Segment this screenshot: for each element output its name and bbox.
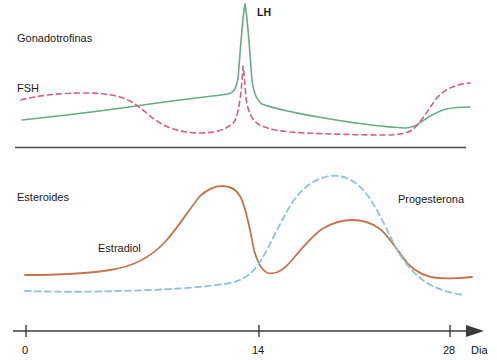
- gonadotrofinas-label: Gonadotrofinas: [17, 32, 93, 44]
- tick-label-0: 0: [22, 344, 28, 356]
- tick-label-14: 14: [252, 344, 264, 356]
- fsh-curve: [21, 66, 470, 135]
- progesterona-label: Progesterona: [398, 193, 465, 205]
- figure-canvas: Gonadotrofinas FSH LH Esteroides Estradi…: [0, 0, 497, 360]
- lh-curve: [22, 4, 470, 128]
- x-axis-arrow-icon: [466, 325, 484, 337]
- estradiol-label: Estradiol: [98, 242, 141, 254]
- x-axis-title: Dia: [471, 344, 488, 356]
- esteroides-label: Esteroides: [17, 191, 69, 203]
- bottom-panel: Esteroides Estradiol Progesterona: [17, 176, 472, 295]
- hormone-cycle-diagram: Gonadotrofinas FSH LH Esteroides Estradi…: [0, 0, 497, 360]
- top-panel: Gonadotrofinas FSH LH: [17, 4, 470, 135]
- tick-label-28: 28: [443, 344, 455, 356]
- x-axis: 0 14 28 Dia: [13, 325, 488, 356]
- lh-label: LH: [257, 6, 271, 18]
- fsh-label: FSH: [17, 82, 39, 94]
